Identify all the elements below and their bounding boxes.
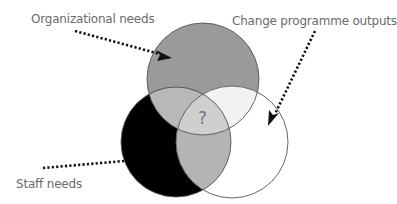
staff-needs-label: Staff needs: [16, 177, 82, 191]
change-programme-outputs-label: Change programme outputs: [232, 14, 397, 28]
center-question-mark: ?: [198, 108, 207, 128]
staff-connector-line: [43, 161, 124, 168]
organizational-needs-label: Organizational needs: [31, 12, 154, 26]
change-arrow: [268, 31, 315, 126]
